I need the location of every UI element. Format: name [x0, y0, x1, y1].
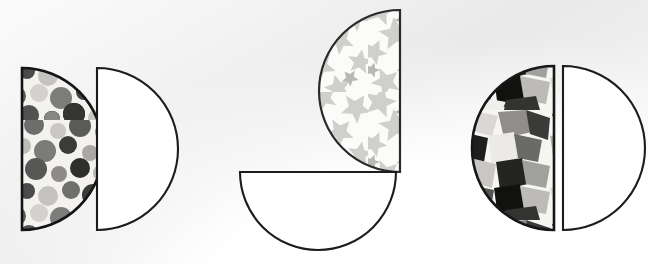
shape-plain-semicircle-right-flat — [563, 66, 645, 230]
scraps-texture — [468, 60, 560, 238]
stars-texture — [314, 4, 406, 180]
shape-plain-semicircle-left-flat — [97, 68, 178, 230]
plain-semicircle-left-flat-outline — [97, 68, 178, 230]
shape-scraps-semicircle — [468, 60, 560, 238]
semicircle-figure-svg — [0, 0, 648, 264]
plain-semicircle-right-flat-outline — [563, 66, 645, 230]
shape-dotted-semicircle — [0, 60, 108, 236]
figure-canvas: Row of five half-disc shapes — [0, 0, 648, 264]
shape-starred-semicircle — [314, 4, 406, 180]
dots-texture — [0, 60, 108, 236]
shape-plain-semicircle-top-flat — [240, 172, 396, 250]
plain-semicircle-top-flat-outline — [240, 172, 396, 250]
